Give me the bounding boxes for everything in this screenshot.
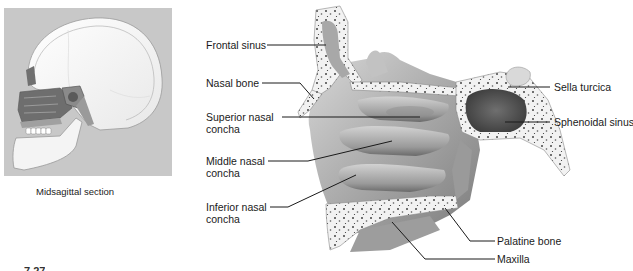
nasal-section — [298, 6, 570, 252]
anatomy-diagram: Midsagittal section Frontal sinus Nasal … — [0, 0, 633, 271]
label-palatine-bone: Palatine bone — [497, 235, 561, 247]
label-sella-turcica: Sella turcica — [554, 81, 611, 93]
label-maxilla-text: Maxilla — [497, 253, 530, 265]
diagram-artwork — [0, 0, 633, 271]
label-superior-nasal-concha-line1: Superior nasal — [206, 111, 274, 123]
leader-nasal-bone — [262, 83, 314, 99]
label-superior-nasal-concha: Superior nasal concha — [206, 111, 274, 135]
inset-caption: Midsagittal section — [36, 186, 114, 197]
skull-inset — [4, 8, 172, 176]
label-nasal-bone-text: Nasal bone — [206, 77, 259, 89]
figure-number: 7.27 — [24, 262, 45, 271]
label-maxilla: Maxilla — [497, 253, 530, 265]
label-sphenoidal-sinus-text: Sphenoidal sinus — [554, 116, 633, 128]
label-middle-nasal-concha-line2: concha — [206, 167, 265, 179]
label-inferior-nasal-concha-line2: concha — [206, 213, 267, 225]
label-sphenoidal-sinus: Sphenoidal sinus — [554, 116, 633, 128]
label-inferior-nasal-concha-line1: Inferior nasal — [206, 201, 267, 213]
label-sella-turcica-text: Sella turcica — [554, 81, 611, 93]
label-frontal-sinus: Frontal sinus — [206, 39, 266, 51]
label-inferior-nasal-concha: Inferior nasal concha — [206, 201, 267, 225]
label-palatine-bone-text: Palatine bone — [497, 235, 561, 247]
label-nasal-bone: Nasal bone — [206, 77, 259, 89]
label-middle-nasal-concha: Middle nasal concha — [206, 155, 265, 179]
label-frontal-sinus-text: Frontal sinus — [206, 39, 266, 51]
label-superior-nasal-concha-line2: concha — [206, 123, 274, 135]
label-middle-nasal-concha-line1: Middle nasal — [206, 155, 265, 167]
